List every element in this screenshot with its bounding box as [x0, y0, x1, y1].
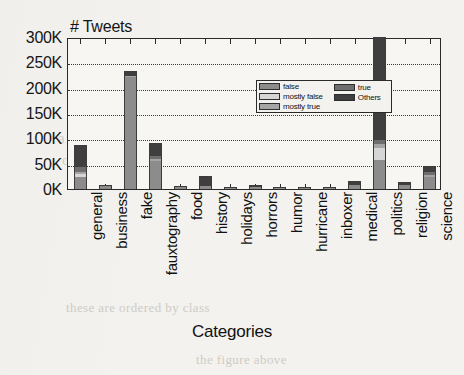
- x-axis-tick-label-politics: politics: [385, 192, 400, 235]
- bar-inboxer[interactable]: [323, 187, 336, 189]
- legend-swatch-icon: [259, 93, 280, 100]
- legend-label: false: [283, 82, 299, 91]
- bar-segment-false: [249, 187, 262, 189]
- bar-segment-Others: [199, 176, 212, 186]
- legend-swatch-icon: [259, 83, 280, 90]
- bar-hurricane[interactable]: [298, 187, 311, 189]
- legend-label: Others: [358, 93, 381, 102]
- bar-food[interactable]: [174, 186, 187, 189]
- x-axis-tick-label-text: inboxer: [339, 192, 354, 239]
- legend-column-right: trueOthers: [334, 82, 389, 111]
- x-axis-tick-label-text: religion: [414, 192, 429, 238]
- bar-segment-false: [99, 186, 112, 189]
- x-axis-tick-label-text: history: [214, 192, 229, 234]
- bar-humor[interactable]: [273, 187, 286, 189]
- x-axis-tick-label-text: holidays: [239, 192, 254, 245]
- x-axis-tick-label-hurricane: hurricane: [310, 192, 325, 252]
- bar-segment-false: [373, 160, 386, 189]
- x-axis-tick-label-general: general: [85, 192, 100, 240]
- bar-business[interactable]: [99, 185, 112, 189]
- y-axis-tick-label: 0K: [43, 182, 62, 198]
- x-axis-tick-label-text: horrors: [264, 192, 279, 237]
- legend-label: mostly true: [283, 102, 320, 111]
- x-axis-tick-label-text: business: [114, 192, 129, 249]
- y-axis-tick-label: 150K: [26, 106, 62, 122]
- bar-politics[interactable]: [373, 37, 386, 189]
- bar-segment-false: [323, 188, 336, 189]
- x-axis-tick-label-fauxtography: fauxtography: [160, 192, 175, 275]
- bar-segment-false: [398, 185, 411, 189]
- bar-segment-false: [273, 188, 286, 189]
- bar-segment-false: [174, 187, 187, 189]
- legend-entry-mostly-false[interactable]: mostly false: [259, 92, 332, 102]
- bar-holidays[interactable]: [224, 187, 237, 189]
- bar-history[interactable]: [199, 176, 212, 189]
- x-axis-tick-label-science: science: [435, 192, 450, 241]
- bar-segment-false: [74, 177, 87, 189]
- x-axis-tick-label-holidays: holidays: [235, 192, 250, 245]
- legend-entry-Others[interactable]: Others: [334, 92, 389, 102]
- x-axis-tick-labels: generalbusinessfakefauxtographyfoodhisto…: [67, 192, 441, 312]
- bar-segment-false: [199, 186, 212, 189]
- x-axis-tick-label-fake: fake: [135, 192, 150, 219]
- legend-swatch-icon: [334, 84, 355, 91]
- x-axis-tick-label-humor: humor: [285, 192, 300, 233]
- y-axis-tick-labels: 0K50K100K150K200K250K300K: [0, 30, 64, 190]
- x-axis-tick-label-text: medical: [364, 192, 379, 242]
- x-axis-tick-label-text: science: [439, 192, 454, 241]
- bar-segment-false: [224, 188, 237, 189]
- x-axis-tick-label-text: humor: [289, 192, 304, 233]
- y-axis-tick-label: 200K: [26, 81, 62, 97]
- y-axis-tick-label: 100K: [26, 131, 62, 147]
- x-axis-tick-label-medical: medical: [360, 192, 375, 242]
- bar-fauxtography[interactable]: [149, 143, 162, 189]
- bar-chart-figure: # Tweets 0K50K100K150K200K250K300K false…: [0, 0, 464, 375]
- x-axis-tick-label-food: food: [185, 192, 200, 220]
- legend-swatch-icon: [259, 103, 280, 110]
- legend-entry-true[interactable]: true: [334, 82, 389, 92]
- y-axis-tick-label: 250K: [26, 55, 62, 71]
- bar-segment-Others: [74, 145, 87, 167]
- bar-segment-false: [149, 161, 162, 189]
- x-axis-tick-label-religion: religion: [410, 192, 425, 238]
- bar-fake[interactable]: [124, 71, 137, 189]
- bars-layer: [68, 39, 440, 189]
- x-axis-tick-label-text: fake: [139, 192, 154, 219]
- legend-label: true: [358, 83, 371, 92]
- x-axis-tick-label-text: food: [189, 192, 204, 220]
- y-axis-title: # Tweets: [70, 18, 132, 36]
- bar-segment-false: [423, 177, 436, 189]
- legend-entry-mostly-true[interactable]: mostly true: [259, 101, 332, 111]
- y-axis-tick-label: 50K: [34, 157, 62, 173]
- bar-segment-false: [124, 77, 137, 189]
- chart-legend: falsemostly falsemostly true trueOthers: [256, 80, 392, 113]
- bar-horrors[interactable]: [249, 185, 262, 189]
- legend-entry-false[interactable]: false: [259, 82, 332, 92]
- bar-segment-false: [348, 185, 361, 189]
- x-axis-title: Categories: [0, 322, 464, 342]
- x-axis-tick-label-inboxer: inboxer: [335, 192, 350, 239]
- x-axis-tick-label-text: fauxtography: [164, 192, 179, 275]
- plot-area: falsemostly falsemostly true trueOthers: [67, 38, 441, 190]
- bar-segment-mostly-false: [373, 148, 386, 160]
- x-axis-tick-label-text: hurricane: [314, 192, 329, 252]
- x-axis-tick-label-history: history: [210, 192, 225, 234]
- y-axis-tick-label: 300K: [26, 30, 62, 46]
- bar-science[interactable]: [423, 166, 436, 189]
- bar-religion[interactable]: [398, 182, 411, 189]
- legend-column-left: falsemostly falsemostly true: [259, 82, 332, 111]
- x-axis-tick-label-text: politics: [389, 192, 404, 235]
- bar-segment-false: [298, 188, 311, 189]
- bar-segment-Others: [149, 143, 162, 156]
- legend-label: mostly false: [283, 92, 323, 101]
- x-axis-tick-label-horrors: horrors: [260, 192, 275, 237]
- x-axis-tick-label-text: general: [89, 192, 104, 240]
- x-axis-tick-label-business: business: [110, 192, 125, 249]
- bar-medical[interactable]: [348, 181, 361, 189]
- legend-swatch-icon: [334, 94, 355, 101]
- bar-general[interactable]: [74, 145, 87, 189]
